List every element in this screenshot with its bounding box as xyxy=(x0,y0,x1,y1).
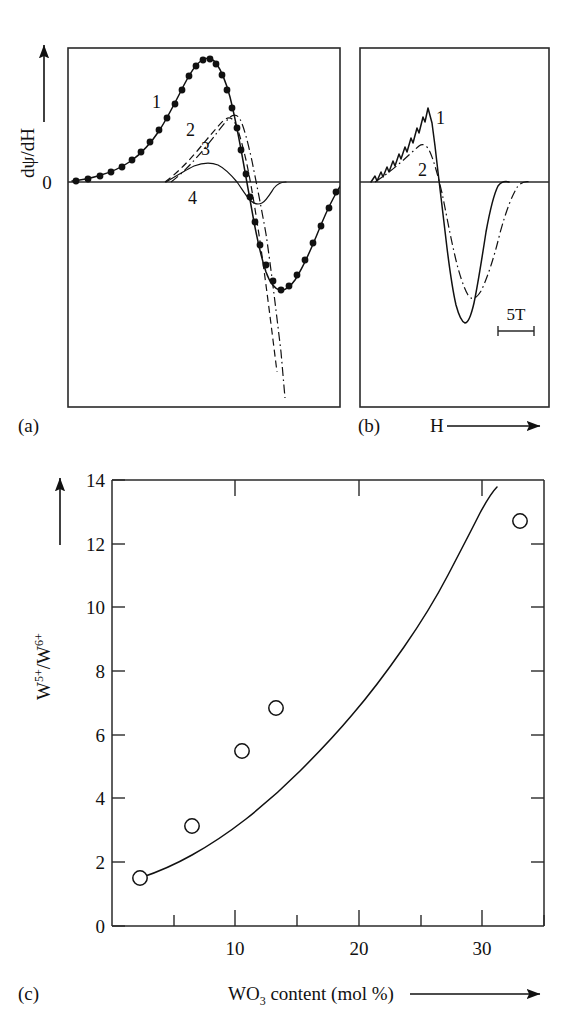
panel-b-scalebar: 5T xyxy=(498,305,534,336)
panel-b-tag: (b) xyxy=(358,415,380,437)
panel-a-curve-label-3: 3 xyxy=(201,139,210,159)
panel-c-x-axis-title: WO3 content (mol %) xyxy=(228,983,394,1008)
panel-c-xtick-10: 10 xyxy=(226,938,245,959)
panel-a-curve-label-4: 4 xyxy=(188,188,197,208)
panel-c-ylabel-part-1: 5+ xyxy=(32,669,46,682)
panel-b-scalebar-label: 5T xyxy=(507,305,527,324)
panel-c: 0 2 4 6 8 10 12 14 xyxy=(18,470,544,1008)
panel-c-ytick-10: 10 xyxy=(86,597,105,618)
panel-c-data-points xyxy=(133,514,527,885)
panel-a-frame xyxy=(68,48,340,407)
panel-c-point-4 xyxy=(269,701,283,715)
panel-c-xlabel-rest: content (mol %) xyxy=(266,983,394,1005)
panel-c-ytick-8: 8 xyxy=(96,661,106,682)
panel-c-xlabel-main: WO xyxy=(228,983,260,1004)
panel-c-fit-curve xyxy=(140,487,497,878)
panel-a-curve-3 xyxy=(171,115,285,398)
panel-c-y-ticks xyxy=(112,480,544,926)
panel-a-curve-2 xyxy=(165,118,277,372)
panel-c-tag: (c) xyxy=(18,983,39,1005)
panel-b-x-axis-title: H xyxy=(430,415,444,436)
panel-b-curve-label-1: 1 xyxy=(436,108,445,128)
panel-c-point-3 xyxy=(235,744,249,758)
panel-a-curve-label-2: 2 xyxy=(186,120,195,140)
panel-a-curve-label-1: 1 xyxy=(152,92,161,112)
panel-c-y-tick-labels: 0 2 4 6 8 10 12 14 xyxy=(86,470,106,937)
panel-c-ytick-4: 4 xyxy=(96,788,106,809)
panel-c-point-5 xyxy=(513,514,527,528)
panel-c-ylabel-part-2: /W xyxy=(33,646,54,669)
panel-a-y-axis-title: dψ/dH xyxy=(17,128,38,178)
panel-c-ylabel-part-3: 6+ xyxy=(32,633,46,646)
panel-a-tag: (a) xyxy=(18,415,39,437)
panel-a: 1 2 3 4 0 dψ/dH (a) xyxy=(17,45,344,437)
panel-c-x-ticks xyxy=(174,480,544,926)
panel-c-x-tick-labels: 10 20 30 xyxy=(226,938,492,959)
panel-a-curve-1 xyxy=(72,58,344,290)
panel-b-curve-1 xyxy=(371,108,509,323)
panel-c-ylabel-part-0: W xyxy=(33,682,54,700)
panel-a-curve-4 xyxy=(166,163,286,204)
panel-c-ytick-0: 0 xyxy=(96,916,106,937)
panel-c-xtick-30: 30 xyxy=(473,938,492,959)
panel-c-xtick-20: 20 xyxy=(350,938,369,959)
panel-c-xlabel-sub: 3 xyxy=(260,994,266,1008)
panel-b-curve-2 xyxy=(375,145,530,299)
panel-b: 1 2 5T (b) H xyxy=(358,48,549,437)
panel-a-curve-1-markers xyxy=(73,56,340,294)
panel-c-ytick-6: 6 xyxy=(96,725,106,746)
panel-c-point-2 xyxy=(185,819,199,833)
figure-svg: 1 2 3 4 0 dψ/dH (a) 1 2 5T xyxy=(0,0,576,1035)
svg-text:W5+/W6+: W5+/W6+ xyxy=(32,633,54,700)
panel-c-ytick-12: 12 xyxy=(86,534,105,555)
panel-a-zero-label: 0 xyxy=(42,172,52,193)
panel-c-ytick-14: 14 xyxy=(86,470,106,491)
panel-b-curve-label-2: 2 xyxy=(418,160,427,180)
figure-root: 1 2 3 4 0 dψ/dH (a) 1 2 5T xyxy=(0,0,576,1035)
panel-c-point-1 xyxy=(133,871,147,885)
panel-c-y-axis-title: W5+/W6+ xyxy=(32,633,54,700)
panel-b-frame xyxy=(360,48,549,407)
panel-c-ytick-2: 2 xyxy=(96,852,106,873)
